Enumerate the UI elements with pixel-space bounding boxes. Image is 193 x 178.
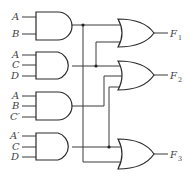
- input-label: C′: [10, 111, 21, 122]
- junction-dot: [107, 145, 110, 148]
- and-gate-1: [36, 12, 72, 40]
- and-gate-4: [36, 133, 68, 160]
- input-label: A′: [9, 130, 20, 141]
- or-gate-3: [118, 139, 154, 169]
- output-labels: F 1 F 2 F 3: [169, 28, 182, 163]
- output-label-f3: F: [169, 149, 178, 160]
- input-label: D: [10, 70, 19, 81]
- or-gate-1: [118, 19, 154, 47]
- input-label: C: [12, 59, 20, 70]
- input-labels: A B A C D A B C′ A′ C D: [9, 11, 21, 162]
- output-subscript: 1: [178, 34, 182, 42]
- and-gate-3: [36, 92, 72, 120]
- and-gate-2: [36, 52, 68, 79]
- junction-dot: [81, 23, 84, 26]
- output-subscript: 3: [178, 155, 182, 163]
- junction-dot: [94, 64, 97, 67]
- output-label-f2: F: [169, 70, 178, 81]
- input-label: D: [10, 151, 19, 162]
- input-label: B: [11, 28, 19, 39]
- input-label: A: [11, 11, 19, 22]
- or-gate-2: [118, 61, 154, 90]
- input-label: B: [11, 100, 19, 111]
- output-subscript: 2: [178, 76, 182, 84]
- input-wires: [22, 17, 36, 157]
- logic-circuit: A B A C D A B C′ A′ C D F 1 F 2 F 3: [0, 0, 193, 178]
- output-label-f1: F: [169, 28, 178, 39]
